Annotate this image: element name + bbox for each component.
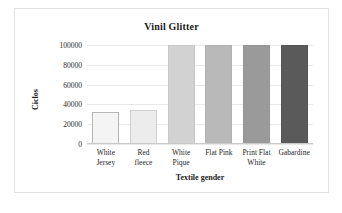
y-axis-tick-label: 0 [78, 140, 82, 149]
y-axis-tick-label: 60000 [63, 80, 82, 89]
bar-series [87, 45, 313, 144]
y-axis-tick-label: 80000 [63, 60, 82, 69]
y-axis-tick-label: 20000 [63, 120, 82, 129]
bar[interactable] [168, 45, 195, 144]
bar[interactable] [130, 110, 157, 144]
bar[interactable] [281, 45, 308, 144]
y-axis-title: Ciclos [31, 70, 40, 130]
x-axis-tick-label-line: fleece [125, 158, 163, 168]
bar[interactable] [243, 45, 270, 144]
bar-slot [125, 45, 163, 144]
plot-area: 020000400006000080000100000 [87, 45, 313, 144]
x-axis-tick-label-line: White [238, 158, 276, 168]
bar-slot [200, 45, 238, 144]
bar-slot [162, 45, 200, 144]
x-axis-tick-label: Flat Pink [200, 148, 238, 158]
chart-frame: Vinil Glitter Ciclos 0200004000060000800… [14, 8, 329, 193]
x-axis-tick-label-line: White [87, 148, 125, 158]
x-axis-tick-label: Redfleece [125, 148, 163, 167]
y-axis-tick-label: 100000 [60, 41, 83, 50]
x-axis-tick-label: Print FlatWhite [238, 148, 276, 167]
x-axis-title: Textile gender [87, 173, 313, 182]
x-axis-tick-label-line: Red [125, 148, 163, 158]
x-axis-tick-label: Gabardine [275, 148, 313, 158]
x-axis-tick-label-line: Flat Pink [200, 148, 238, 158]
y-axis-tick-label: 40000 [63, 100, 82, 109]
x-axis-tick-label-line: Print Flat [238, 148, 276, 158]
x-axis-tick-label-line: Pique [162, 158, 200, 168]
x-axis-tick-label: WhitePique [162, 148, 200, 167]
x-axis-tick-label-line: White [162, 148, 200, 158]
gridline [87, 144, 313, 145]
figure-container: Vinil Glitter Ciclos 0200004000060000800… [0, 0, 342, 213]
x-axis-tick-label-line: Jersey [87, 158, 125, 168]
bar-slot [238, 45, 276, 144]
bar[interactable] [92, 112, 119, 144]
chart-title: Vinil Glitter [15, 21, 328, 32]
bar-slot [275, 45, 313, 144]
x-axis-baseline [87, 143, 313, 144]
figure-caption [0, 205, 342, 213]
x-axis-tick-label-line: Gabardine [275, 148, 313, 158]
x-axis-tick-labels: WhiteJerseyRedfleeceWhitePiqueFlat PinkP… [87, 148, 313, 174]
x-axis-tick-label: WhiteJersey [87, 148, 125, 167]
bar[interactable] [205, 45, 232, 144]
bar-slot [87, 45, 125, 144]
